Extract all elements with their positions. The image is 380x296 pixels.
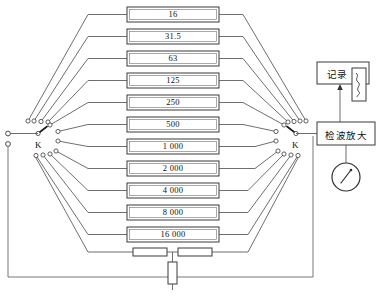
filter-block-label: 2 000 xyxy=(127,164,219,173)
left-switch-assembly[interactable] xyxy=(10,119,60,158)
filter-block-label: 250 xyxy=(127,98,219,107)
filter-block-label: 500 xyxy=(127,120,219,129)
filter-block-label: 8 000 xyxy=(127,208,219,217)
shunt-resistor xyxy=(168,262,177,284)
switch-contact[interactable] xyxy=(304,119,308,123)
filter-block-label: 63 xyxy=(127,54,219,63)
switch-contact[interactable] xyxy=(56,139,60,143)
circuit-diagram: 16 31.5 63 125 250 500 1 000 2 000 4 000… xyxy=(0,0,380,296)
switch-contact[interactable] xyxy=(274,129,278,133)
switch-contact[interactable] xyxy=(289,153,293,157)
switch-contact[interactable] xyxy=(32,119,36,123)
filter-block-label: 16 000 xyxy=(127,230,219,239)
left-switch-label: K xyxy=(35,140,42,150)
series-resistor-left xyxy=(133,248,167,256)
switch-contact[interactable] xyxy=(54,149,58,153)
switch-contact[interactable] xyxy=(26,119,30,123)
input-terminals[interactable] xyxy=(6,131,11,277)
switch-contact[interactable] xyxy=(274,139,278,143)
meter-needle-tip xyxy=(350,169,353,172)
series-resistor-right xyxy=(178,248,212,256)
filter-block-label: 125 xyxy=(127,76,219,85)
switch-contact[interactable] xyxy=(48,152,52,156)
switch-contact[interactable] xyxy=(282,123,286,127)
switch-contact[interactable] xyxy=(39,119,43,123)
filter-block-label: 4 000 xyxy=(127,186,219,195)
arrow-head xyxy=(337,84,343,90)
switch-contact[interactable] xyxy=(41,153,45,157)
switch-contact[interactable] xyxy=(286,120,290,124)
filter-block-label: 1 000 xyxy=(127,142,219,151)
switch-contact[interactable] xyxy=(296,153,300,157)
input-terminal-top[interactable] xyxy=(6,131,11,136)
switch-contact[interactable] xyxy=(282,152,286,156)
switch-contact[interactable] xyxy=(292,119,296,123)
recorder-label: 记录 xyxy=(317,67,357,81)
right-switch-label: K xyxy=(292,140,299,150)
filter-block-label: 31.5 xyxy=(127,32,219,41)
right-switch-assembly[interactable] xyxy=(274,119,317,158)
filter-block-label: 16 xyxy=(127,10,219,19)
switch-contact[interactable] xyxy=(48,123,52,127)
switch-contact[interactable] xyxy=(56,129,60,133)
switch-contact[interactable] xyxy=(298,119,302,123)
right-lead-wires xyxy=(219,15,306,235)
detector-amplifier-label: 检波放大 xyxy=(317,128,375,142)
left-lead-wires xyxy=(28,15,127,235)
switch-contact[interactable] xyxy=(34,153,38,157)
input-terminal-bottom[interactable] xyxy=(6,142,11,147)
switch-contact[interactable] xyxy=(276,149,280,153)
